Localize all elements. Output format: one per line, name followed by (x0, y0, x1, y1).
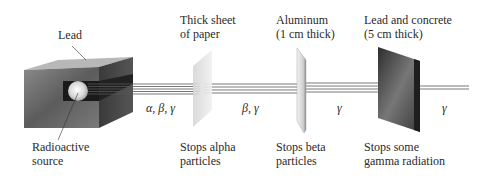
concrete-stop-line2: gamma radiation (364, 155, 445, 168)
aluminum-label-line1: Aluminum (276, 14, 328, 27)
paper-label-line2: of paper (180, 28, 220, 41)
concrete-label-line1: Lead and concrete (364, 14, 452, 27)
aluminum-label-line2: (1 cm thick) (276, 28, 335, 41)
source-label-line2: source (32, 155, 63, 168)
concrete-stop-line1: Stops some (364, 141, 419, 154)
paper-label-line1: Thick sheet (180, 14, 236, 27)
beam-label-beta-gamma: β, γ (242, 101, 259, 116)
concrete-label-line2: (5 cm thick) (364, 28, 423, 41)
paper-stop-line2: particles (180, 155, 221, 168)
lead-concrete-slab (378, 47, 420, 132)
paper-sheet (193, 50, 212, 127)
source-label-line1: Radioactive (32, 141, 89, 154)
lead-label: Lead (58, 29, 82, 42)
beam-label-gamma-2: γ (442, 101, 447, 116)
aluminum-plate (297, 48, 306, 133)
aluminum-stop-line2: particles (276, 155, 317, 168)
lead-shield-box (24, 57, 133, 128)
beam-label-alpha-beta-gamma: α, β, γ (146, 101, 175, 116)
lead-leader-line (72, 46, 86, 60)
radiation-penetration-diagram: Lead Radioactive source Thick sheet of p… (0, 0, 491, 178)
aluminum-stop-line1: Stops beta (276, 141, 326, 154)
radioactive-source-icon (68, 81, 88, 101)
paper-stop-line1: Stops alpha (180, 141, 236, 154)
beam-label-gamma-1: γ (337, 101, 342, 116)
